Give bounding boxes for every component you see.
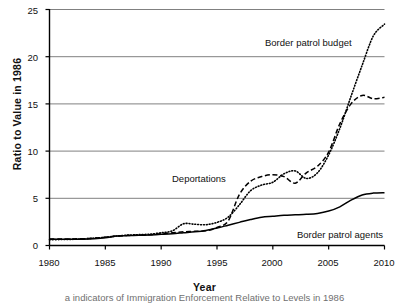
- y-tick-label-0: 0: [8, 241, 38, 251]
- y-tick-label-5: 5: [8, 194, 38, 204]
- series-line-1: [50, 95, 385, 239]
- y-tick-label-10: 10: [8, 147, 38, 157]
- series-label-border-patrol-budget: Border patrol budget: [265, 37, 352, 48]
- x-tick-label-1980: 1980: [27, 258, 71, 268]
- x-tick-label-2005: 2005: [306, 258, 350, 268]
- x-tick-label-2000: 2000: [250, 258, 294, 268]
- x-tick-label-1990: 1990: [139, 258, 183, 268]
- y-tick-label-25: 25: [8, 6, 38, 16]
- figure-caption: a indicators of Immigration Enforcement …: [0, 292, 409, 303]
- x-tick-label-2010: 2010: [362, 258, 406, 268]
- y-tick-label-15: 15: [8, 100, 38, 110]
- y-tick-label-20: 20: [8, 53, 38, 63]
- series-label-border-patrol-agents: Border patrol agents: [297, 229, 383, 240]
- x-tick-label-1985: 1985: [83, 258, 127, 268]
- series-label-deportations: Deportations: [172, 173, 226, 184]
- x-tick-label-1995: 1995: [195, 258, 239, 268]
